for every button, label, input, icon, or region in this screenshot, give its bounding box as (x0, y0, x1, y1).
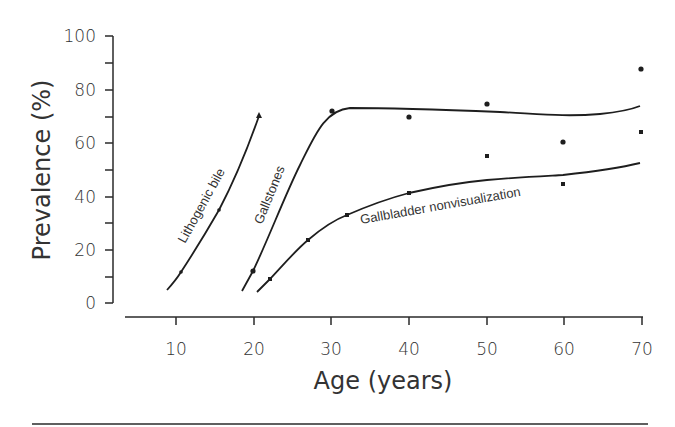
x-tick-30: 30 (320, 339, 342, 359)
x-tick-40: 40 (398, 339, 420, 359)
y-axis-title: Prevalence (%) (28, 80, 56, 261)
x-tick-70: 70 (631, 339, 653, 359)
label-gallbladder-nonvisualization: Gallbladder nonvisualization (359, 184, 522, 227)
series-gallstones: Gallstones (242, 66, 644, 291)
y-tick-60: 60 (74, 133, 96, 153)
x-axis-title: Age (years) (314, 367, 453, 395)
series-gallbladder-nonvisualization: Gallbladder nonvisualization (257, 130, 643, 292)
y-tick-40: 40 (74, 187, 96, 207)
y-tick-20: 20 (74, 240, 96, 260)
triangle-marker-icon (256, 112, 262, 118)
x-tick-20: 20 (243, 339, 265, 359)
y-tick-100: 100 (64, 26, 96, 46)
series-lithogenic-bile: Lithogenic bile (167, 112, 262, 290)
prevalence-chart: 100 80 60 40 20 0 Prevalence (%) 10 20 3… (0, 0, 675, 427)
y-tick-0: 0 (85, 293, 96, 313)
x-tick-60: 60 (553, 339, 575, 359)
y-axis: 100 80 60 40 20 0 Prevalence (%) (28, 26, 113, 313)
x-tick-10: 10 (165, 339, 187, 359)
x-tick-50: 50 (476, 339, 498, 359)
label-gallstones: Gallstones (251, 163, 288, 226)
label-lithogenic-bile: Lithogenic bile (175, 165, 228, 245)
x-axis: 10 20 30 40 50 60 70 Age (years) (125, 317, 653, 395)
y-tick-80: 80 (74, 80, 96, 100)
